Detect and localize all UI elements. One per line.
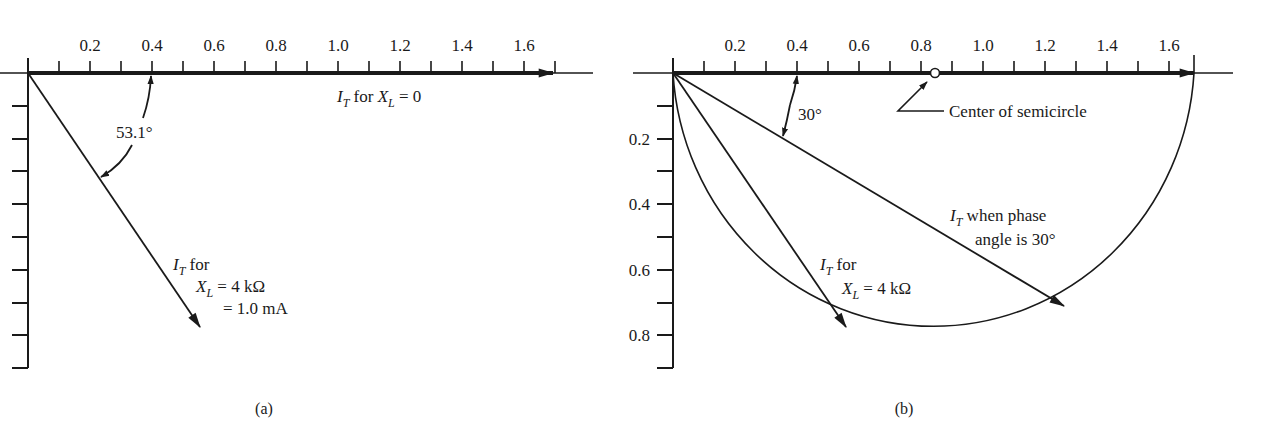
label-it-xl4k-line2: XL = 4 kΩ	[195, 277, 265, 300]
tick-label: 0.8	[910, 36, 931, 55]
tick-label: 0.4	[141, 36, 163, 55]
center-label: Center of semicircle	[949, 102, 1087, 121]
tick-label: 1.2	[389, 36, 410, 55]
tick-label: 0.2	[79, 36, 100, 55]
angle-arc-53-icon	[143, 76, 151, 118]
tick-label: 0.8	[629, 326, 650, 345]
panel-b-y-tick-labels: 0.2 0.4 0.6 0.8	[629, 130, 651, 345]
tick-label: 1.0	[972, 36, 993, 55]
angle-arc-30-icon	[790, 76, 797, 105]
tick-label: 0.2	[724, 36, 745, 55]
angle-label-53: 53.1°	[116, 123, 153, 142]
tick-label: 1.6	[513, 36, 534, 55]
label-it-xl4k-line1: IT for	[172, 255, 210, 278]
tick-label: 0.4	[629, 195, 651, 214]
label-it-xl4k-b-line2: XL = 4 kΩ	[841, 279, 911, 302]
tick-label: 0.8	[265, 36, 286, 55]
panel-a: 0.2 0.4 0.6 0.8 1.0 1.2 1.4 1.6 IT for X…	[0, 36, 593, 418]
label-it-xl4k-b-line1: IT for	[819, 255, 857, 278]
angle-arc-30-lower-icon	[783, 105, 790, 136]
label-it-xl0: IT for XL = 0	[336, 87, 421, 110]
tick-label: 1.6	[1158, 36, 1179, 55]
tick-label: 0.6	[848, 36, 869, 55]
tick-label: 1.4	[1096, 36, 1118, 55]
angle-arc-53-lower-icon	[101, 145, 132, 177]
phasor-diagram: 0.2 0.4 0.6 0.8 1.0 1.2 1.4 1.6 IT for X…	[0, 0, 1276, 431]
caption-b: (b)	[895, 400, 914, 418]
center-leader	[898, 82, 944, 111]
tick-label: 0.4	[786, 36, 808, 55]
panel-a-y-ticks	[12, 106, 28, 368]
caption-a: (a)	[255, 400, 273, 418]
panel-a-x-tick-labels: 0.2 0.4 0.6 0.8 1.0 1.2 1.4 1.6	[79, 36, 534, 55]
panel-b: 0.2 0.4 0.6 0.8 0.2	[629, 36, 1233, 418]
panel-a-phasor-xl4k	[28, 73, 200, 327]
panel-b-y-ticks	[657, 106, 673, 368]
tick-label: 1.2	[1034, 36, 1055, 55]
panel-b-x-tick-labels: 0.2 0.4 0.6 0.8 1.0 1.2 1.4 1.6	[724, 36, 1179, 55]
tick-label: 1.0	[327, 36, 348, 55]
label-it-xl4k-line3: = 1.0 mA	[223, 299, 289, 318]
center-marker-icon	[931, 69, 940, 78]
label-it-30-line2: angle is 30°	[975, 230, 1055, 249]
label-it-30-line1: IT when phase	[949, 206, 1046, 229]
tick-label: 0.2	[629, 130, 650, 149]
figure: 0.2 0.4 0.6 0.8 1.0 1.2 1.4 1.6 IT for X…	[0, 0, 1276, 431]
tick-label: 0.6	[203, 36, 224, 55]
tick-label: 0.6	[629, 261, 650, 280]
tick-label: 1.4	[451, 36, 473, 55]
angle-label-30: 30°	[798, 105, 822, 124]
